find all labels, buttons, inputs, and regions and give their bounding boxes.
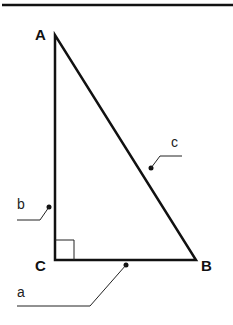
right-angle-marker — [55, 240, 74, 260]
right-triangle-diagram: A C B c b a — [0, 0, 233, 325]
vertex-label-c: C — [35, 257, 46, 274]
side-label-a: a — [17, 284, 25, 300]
vertex-label-a: A — [35, 26, 46, 43]
side-label-c: c — [171, 134, 178, 150]
leader-a — [17, 263, 129, 307]
leader-c — [149, 156, 183, 171]
vertex-label-b: B — [201, 257, 212, 274]
side-label-b: b — [17, 196, 25, 212]
